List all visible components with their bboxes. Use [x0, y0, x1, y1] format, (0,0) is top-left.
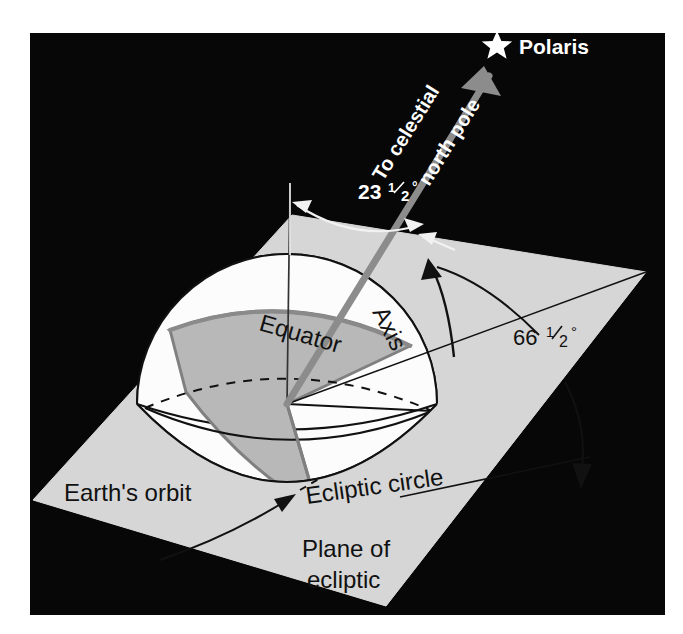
- label-polaris: Polaris: [519, 35, 589, 58]
- astronomy-diagram: Polaris To celestial north pole 23 1 2 °…: [0, 0, 683, 634]
- label-plane-of-ecliptic-line1: Plane of: [302, 535, 390, 562]
- label-plane-angle-denominator: 2: [559, 333, 568, 350]
- label-plane-angle-degree: °: [571, 323, 577, 340]
- label-tilt-angle-denominator: 2: [401, 187, 409, 204]
- label-tilt-angle-degree: °: [412, 179, 418, 195]
- label-plane-of-ecliptic-line2: ecliptic: [307, 566, 380, 593]
- label-plane-angle-whole: 66: [513, 325, 537, 350]
- label-tilt-angle-whole: 23: [358, 180, 381, 203]
- label-earths-orbit: Earth's orbit: [64, 479, 192, 506]
- figure-canvas: Polaris To celestial north pole 23 1 2 °…: [0, 0, 683, 634]
